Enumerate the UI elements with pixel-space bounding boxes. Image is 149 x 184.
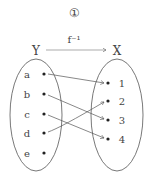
mapping-diagram: ① f⁻¹ Y X a b c d e 1 2 3 4 (0, 0, 149, 184)
element-e: e (24, 148, 30, 159)
set-y-name: Y (31, 44, 41, 58)
set-x-ellipse (91, 59, 143, 171)
element-a: a (24, 69, 30, 80)
set-y-ellipse (10, 59, 62, 171)
diagram-number: ① (69, 6, 80, 20)
element-c: c (24, 109, 30, 120)
arrow-a-to-1 (48, 74, 104, 83)
element-2: 2 (119, 96, 125, 107)
mapping-label: f⁻¹ (68, 34, 81, 45)
set-x-name: X (113, 44, 122, 58)
element-b: b (24, 89, 30, 100)
element-d: d (24, 128, 31, 139)
arrow-d-to-2 (48, 102, 104, 132)
element-1: 1 (119, 78, 125, 89)
element-4: 4 (119, 134, 125, 145)
set-y-elements: a b c d e (24, 69, 46, 159)
element-3: 3 (119, 115, 125, 126)
set-x-elements: 1 2 3 4 (106, 78, 125, 145)
